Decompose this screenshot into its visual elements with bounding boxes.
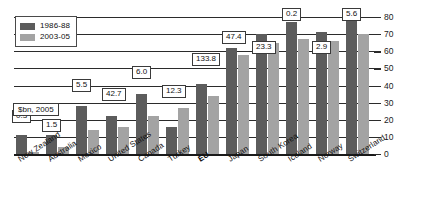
legend-swatch-icon-2003-05 — [20, 34, 35, 41]
value-label-eu: 133.8 — [192, 53, 220, 66]
value-label-united-states: 42.7 — [102, 88, 126, 101]
legend-item-1: 1986-88 — [20, 21, 70, 31]
legend-label-1986-88: 1986-88 — [40, 22, 70, 30]
value-label-norway: 2.9 — [312, 41, 331, 54]
legend: 1986-88 2003-05 — [15, 16, 77, 47]
value-label-canada: 6.0 — [132, 66, 151, 79]
value-label-japan: 47.4 — [222, 31, 246, 44]
bar-chart: 80 70 60 50 40 30 20 10 0 0.31.55.542.76… — [0, 0, 425, 207]
x-axis-labels: New ZealandAustraliaMexicoUnited StatesC… — [0, 155, 425, 207]
legend-label-2003-05: 2003-05 — [40, 33, 70, 41]
value-label-mexico: 5.5 — [72, 79, 91, 92]
value-label-turkey: 12.3 — [162, 85, 186, 98]
value-label-switzerland: 5.6 — [342, 8, 361, 21]
value-label-iceland: 0.2 — [282, 8, 301, 21]
legend-item-2: 2003-05 — [20, 32, 70, 42]
unit-annotation: $bn, 2005 — [13, 103, 59, 116]
value-label-south-korea: 23.3 — [252, 41, 276, 54]
value-label-australia: 1.5 — [42, 119, 61, 132]
legend-swatch-icon-1986-88 — [20, 23, 35, 30]
